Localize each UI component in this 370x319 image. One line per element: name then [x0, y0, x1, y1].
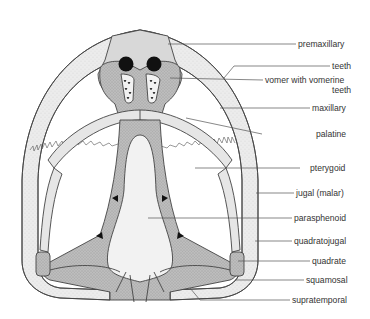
label-parasphenoid: parasphenoid: [294, 213, 346, 223]
label-quadrate: quadrate: [312, 256, 346, 266]
label-jugal: jugal (malar): [295, 188, 344, 198]
label-teeth: teeth: [332, 61, 351, 71]
quadrate-right: [230, 252, 244, 276]
label-maxillary: maxillary: [312, 103, 347, 113]
label-palatine: palatine: [316, 129, 346, 139]
label-supratemporal: supratemporal: [292, 295, 347, 305]
internal-naris-right: [147, 57, 162, 72]
label-vomer-line2: teeth: [332, 85, 351, 95]
quadrate-left: [36, 252, 50, 276]
skull-palate-diagram: premaxillary teeth vomer with vomerine t…: [0, 0, 370, 319]
pterygoid-left: [40, 168, 62, 252]
label-premaxillary: premaxillary: [298, 39, 345, 49]
label-squamosal: squamosal: [306, 275, 348, 285]
label-vomer: vomer with vomerine: [265, 75, 344, 85]
label-pterygoid: pterygoid: [310, 163, 346, 173]
label-quadratojugal: quadratojugal: [294, 236, 346, 246]
pterygoid-right: [218, 168, 240, 252]
internal-naris-left: [119, 57, 134, 72]
